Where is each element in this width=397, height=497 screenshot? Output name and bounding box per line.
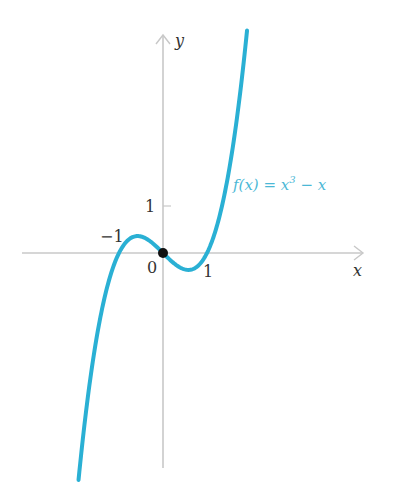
tick-label-x-neg1: −1 <box>100 227 124 246</box>
tick-label-x-1: 1 <box>203 262 213 281</box>
origin-label: 0 <box>147 258 157 277</box>
function-label: f(x) = x3 − x <box>232 174 327 194</box>
x-axis-label: x <box>353 261 362 280</box>
y-axis-label: y <box>174 31 185 50</box>
tick-label-y-1: 1 <box>145 197 155 216</box>
chart: y x 0 −1 1 1 f(x) = x3 − x <box>0 0 397 497</box>
origin-point <box>158 248 168 258</box>
